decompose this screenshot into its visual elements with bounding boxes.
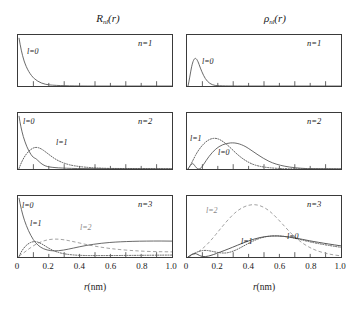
xtick-left-1: 0.2 [43,261,54,271]
row-label-n2-left: n=2 [138,116,152,126]
curve-label-P-n3-l0: l=0 [287,232,299,241]
curve-label-R-n3-l1: l=1 [30,219,42,228]
curve-label-P-n3-l1: l=1 [241,237,253,246]
xtick-left-3: 0.6 [105,261,116,271]
curve-label-R-n2-l0: l=0 [23,117,35,126]
row-label-n1-right: n=1 [307,38,321,48]
row-label-n3-right: n=3 [307,199,321,209]
xaxis-title-left-unit: (nm) [88,282,106,292]
xtick-right-0: 0 [184,261,189,271]
xtick-right-4: 0.8 [305,261,316,271]
curve-label-P-n2-l1: l=1 [190,134,202,143]
column-title-left: Rnl(r) [48,12,168,26]
row-label-n3-left: n=3 [138,199,152,209]
curve-label-P-n3-l2: l=2 [206,206,218,215]
curve-label-P-n1-l0: l=0 [202,57,214,66]
curve-label-P-n2-l0: l=0 [218,148,230,157]
xtick-left-4: 0.8 [136,261,147,271]
column-title-left-arg: (r) [108,12,120,24]
column-title-right-arg: (r) [274,12,286,24]
curve-label-R-n1-l0: l=0 [27,47,39,56]
xaxis-title-right-unit: (nm) [257,282,275,292]
xtick-right-1: 0.2 [212,261,223,271]
xtick-right-5: 1.0 [334,261,345,271]
row-label-n1-left: n=1 [138,38,152,48]
curve-label-R-n2-l1: l=1 [56,138,68,147]
xtick-left-0: 0 [15,261,20,271]
column-title-right: ρnl(r) [215,12,335,26]
curve-label-R-n3-l0: l=0 [22,201,34,210]
xaxis-title-right: r(nm) [253,282,275,292]
xtick-left-2: 0.4 [74,261,85,271]
xaxis-title-left: r(nm) [84,282,106,292]
curve-label-R-n3-l2: l=2 [80,223,92,232]
xtick-right-2: 0.4 [243,261,254,271]
row-label-n2-right: n=2 [307,116,321,126]
xtick-right-3: 0.6 [274,261,285,271]
xtick-left-5: 1.0 [165,261,176,271]
